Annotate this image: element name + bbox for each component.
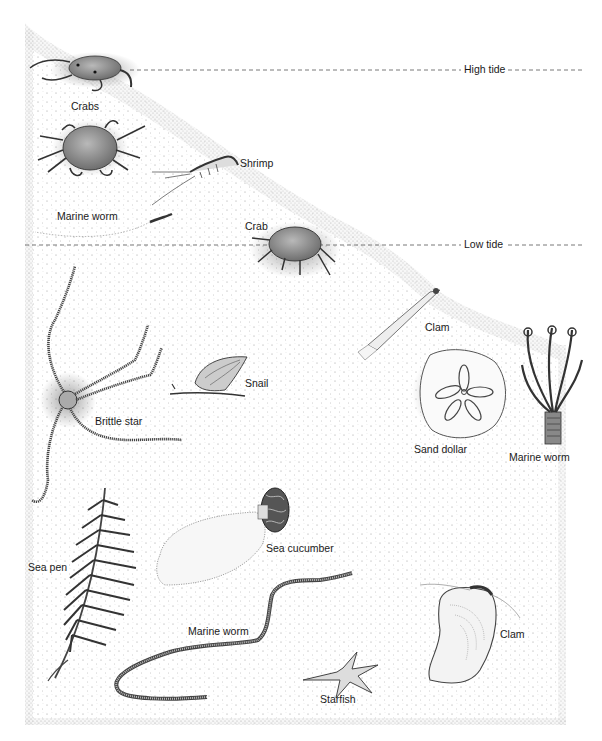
label-snail: Snail <box>245 377 268 389</box>
low-tide-label: Low tide <box>461 238 506 250</box>
label-marine-worm-long: Marine worm <box>188 625 249 637</box>
label-crab: Crab <box>245 220 268 232</box>
label-marine-worm-intertidal: Marine worm <box>57 210 118 222</box>
label-brittle-star: Brittle star <box>95 415 142 427</box>
label-sea-cucumber: Sea cucumber <box>266 542 334 554</box>
label-clam-razor: Clam <box>425 321 450 333</box>
label-sea-pen: Sea pen <box>28 561 67 573</box>
label-crabs: Crabs <box>71 100 99 112</box>
label-clam: Clam <box>500 628 525 640</box>
label-shrimp: Shrimp <box>240 157 273 169</box>
label-starfish: Starfish <box>320 693 356 705</box>
label-marine-worm-tube: Marine worm <box>509 451 570 463</box>
label-sand-dollar: Sand dollar <box>414 443 467 455</box>
shore-zonation-illustration: High tide Low tide Crabs Shrimp Marine w… <box>0 0 602 741</box>
high-tide-label: High tide <box>461 63 508 75</box>
sand-dollar-icon <box>412 347 508 439</box>
